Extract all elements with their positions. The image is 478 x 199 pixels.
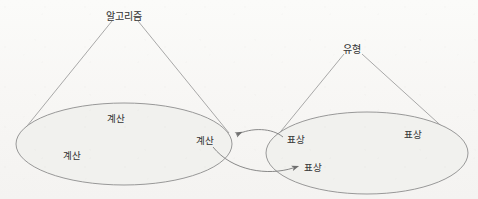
left-member-label-top: 계산 [107,114,125,124]
left-member-label-bottom: 계산 [63,151,81,161]
right-domain-ellipse [266,112,468,194]
diagram-graphics [0,0,478,199]
left-member-label-edge: 계산 [196,136,214,146]
right-member-label-edge: 표상 [287,135,305,145]
left-apex-label: 알고리즘 [106,12,143,22]
right-member-label-bottom: 표상 [304,163,322,173]
right-apex-label: 유형 [343,45,361,55]
right-member-label-far: 표상 [404,130,422,140]
diagram-canvas: 알고리즘 유형 계산 계산 계산 표상 표상 표상 [0,0,478,199]
